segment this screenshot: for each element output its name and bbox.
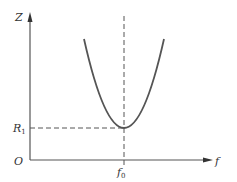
- y-axis-label: Z: [14, 11, 23, 24]
- r1-label: R1: [12, 122, 26, 136]
- origin-label: O: [14, 155, 23, 168]
- resonance-curve-diagram: Z f O R1 f0: [0, 0, 237, 182]
- x-axis-arrow-icon: [203, 158, 213, 163]
- y-axis-arrow-icon: [28, 12, 33, 22]
- f0-label: f0: [116, 166, 126, 180]
- x-axis-label: f: [214, 155, 221, 168]
